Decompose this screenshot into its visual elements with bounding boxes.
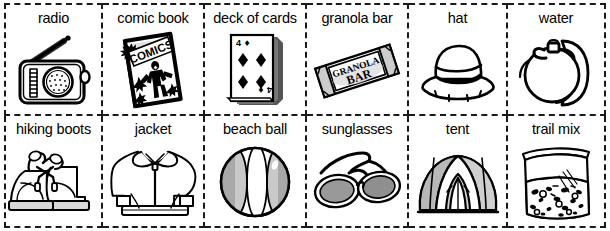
card-label: water bbox=[539, 5, 573, 28]
card-label: hiking boots bbox=[16, 116, 91, 139]
card-suit-top: ♦ bbox=[244, 39, 251, 48]
card-label: trail mix bbox=[532, 116, 580, 139]
card-cell-granola-bar[interactable]: granola bar GRANOLA BAR bbox=[307, 3, 409, 116]
card-rank-top: 4 bbox=[236, 38, 241, 48]
card-label: radio bbox=[38, 5, 69, 28]
card-label: comic book bbox=[117, 5, 188, 28]
card-grid: radio bbox=[4, 3, 606, 228]
card-cell-jacket[interactable]: jacket bbox=[103, 116, 205, 228]
jacket-icon bbox=[103, 139, 203, 227]
card-cell-beach-ball[interactable]: beach ball bbox=[205, 116, 307, 228]
card-cell-deck-of-cards[interactable]: deck of cards 4 ♦ 4 ♦ bbox=[205, 3, 307, 116]
card-label: granola bar bbox=[321, 5, 392, 28]
water-canteen-icon bbox=[508, 28, 604, 115]
sunglasses-icon bbox=[307, 139, 407, 227]
radio-icon bbox=[6, 28, 101, 115]
card-cell-trail-mix[interactable]: trail mix bbox=[508, 116, 606, 228]
comic-book-icon: COMICS bbox=[103, 28, 203, 115]
card-label: sunglasses bbox=[322, 116, 393, 139]
card-label: tent bbox=[446, 116, 469, 139]
hat-icon bbox=[409, 28, 506, 115]
trail-mix-icon bbox=[508, 139, 604, 227]
card-cell-hat[interactable]: hat bbox=[409, 3, 508, 116]
card-label: beach ball bbox=[223, 116, 287, 139]
hiking-boots-icon bbox=[6, 139, 101, 227]
tent-icon bbox=[409, 139, 506, 227]
picture-card-sheet: radio bbox=[0, 0, 610, 231]
card-cell-hiking-boots[interactable]: hiking boots bbox=[4, 116, 103, 228]
card-label: hat bbox=[448, 5, 468, 28]
granola-bar-icon: GRANOLA BAR bbox=[307, 28, 407, 115]
beach-ball-icon bbox=[205, 139, 305, 227]
card-label: jacket bbox=[135, 116, 172, 139]
card-cell-water[interactable]: water bbox=[508, 3, 606, 116]
card-rank-bottom: 4 bbox=[267, 85, 272, 95]
deck-of-cards-icon: 4 ♦ 4 ♦ bbox=[205, 28, 305, 115]
card-cell-tent[interactable]: tent bbox=[409, 116, 508, 228]
card-cell-radio[interactable]: radio bbox=[4, 3, 103, 116]
card-label: deck of cards bbox=[213, 5, 297, 28]
card-cell-comic-book[interactable]: comic book bbox=[103, 3, 205, 116]
card-cell-sunglasses[interactable]: sunglasses bbox=[307, 116, 409, 228]
